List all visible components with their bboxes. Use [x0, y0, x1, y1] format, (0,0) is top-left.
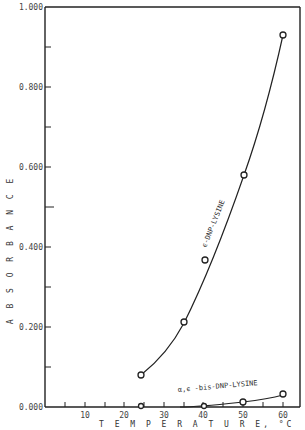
- y-tick-label: 0.200: [19, 323, 43, 332]
- y-axis-title: A B S O R B A N C E: [6, 176, 15, 325]
- y-tick-label: 0.800: [19, 83, 43, 92]
- x-tick-label: 40: [198, 411, 208, 420]
- data-point: [181, 319, 187, 325]
- series-markers-bis-dnp-lysine: [139, 391, 287, 409]
- data-point: [280, 32, 286, 38]
- x-tick-label: 30: [159, 411, 169, 420]
- data-point: [280, 391, 286, 397]
- x-axis-ticks: [65, 402, 283, 407]
- plot-frame: [45, 7, 300, 407]
- series-line-e-dnp-lysine: [141, 35, 283, 375]
- series-markers-e-dnp-lysine: [138, 32, 286, 378]
- data-point: [138, 372, 144, 378]
- series-line-bis-dnp-lysine: [180, 395, 283, 407]
- x-tick-label: 50: [238, 411, 248, 420]
- data-point: [202, 257, 208, 263]
- y-tick-label: 0.600: [19, 163, 43, 172]
- data-point: [240, 399, 246, 405]
- data-point: [139, 404, 144, 409]
- x-tick-label: 10: [80, 411, 90, 420]
- x-tick-label: 20: [119, 411, 129, 420]
- x-tick-label: 60: [278, 411, 288, 420]
- y-axis-labels: 1.000 0.800 0.600 0.400 0.200 0.000: [19, 3, 43, 412]
- y-tick-label: 0.400: [19, 243, 43, 252]
- x-axis-labels: 10 20 30 40 50 60: [80, 411, 288, 420]
- annotation-e-dnp-lysine: ϵ-DNP-LYSINE: [200, 199, 226, 249]
- y-tick-label: 1.000: [19, 3, 43, 12]
- y-tick-label: 0.000: [19, 403, 43, 412]
- annotation-bis-dnp-lysine: α,ϵ -bis-DNP-LYSINE: [177, 379, 257, 394]
- absorbance-chart: 1.000 0.800 0.600 0.400 0.200 0.000 10 2…: [0, 0, 305, 430]
- data-point: [241, 172, 247, 178]
- y-axis-ticks: [45, 47, 54, 367]
- x-axis-title: T E M P E R A T U R E, °C: [99, 420, 294, 429]
- data-point: [202, 404, 207, 409]
